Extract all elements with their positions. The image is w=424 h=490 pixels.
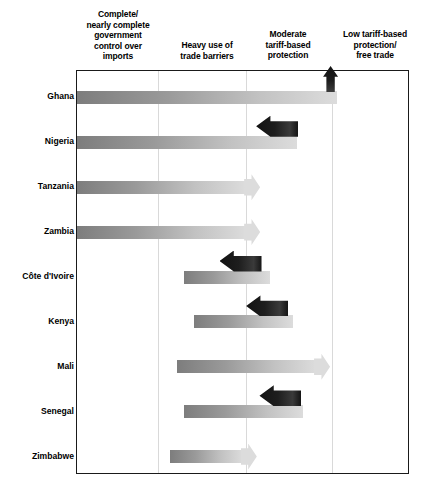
column-header-line: imports [62, 51, 174, 62]
bar-zambia [77, 226, 260, 239]
bar-nigeria [77, 136, 297, 149]
reform-arrow-left-icon [259, 385, 301, 406]
column-header-line: Complete/ [62, 9, 174, 20]
column-header-line: nearly complete [62, 20, 174, 31]
column-header-line: protection/ [327, 40, 423, 51]
bar-ghana [77, 91, 337, 104]
column-header-line: tariff-based [244, 40, 332, 51]
category-label-zambia: Zambia [2, 226, 74, 236]
bar-body [194, 315, 294, 328]
bar-body [170, 450, 243, 463]
category-label-kenya: Kenya [2, 316, 74, 326]
bar-tanzania [77, 181, 260, 194]
column-header-low-tariff-free-trade: Low tariff-based protection/ free trade [327, 29, 423, 61]
reform-arrow-up-icon [323, 66, 338, 92]
category-label-zimbabwe: Zimbabwe [2, 451, 74, 461]
category-label-mali: Mali [2, 361, 74, 371]
category-label-senegal: Senegal [2, 406, 74, 416]
bar-body [77, 136, 297, 149]
column-header-line: free trade [327, 50, 423, 61]
bar-zimbabwe [170, 450, 257, 463]
column-header-complete-control: Complete/ nearly complete government con… [62, 9, 174, 62]
trade-regime-chart: Complete/ nearly complete government con… [0, 0, 424, 490]
category-label-tanzania: Tanzania [2, 181, 74, 191]
column-header-moderate-tariff: Moderate tariff-based protection [244, 29, 332, 61]
column-header-heavy-trade-barriers: Heavy use of trade barriers [159, 40, 255, 61]
bar-senegal [184, 405, 304, 418]
category-label-c-te-d-ivoire: Côte d'Ivoire [2, 271, 74, 281]
bar-arrowhead-icon [241, 444, 257, 470]
column-header-line: trade barriers [159, 51, 255, 62]
category-axis: GhanaNigeriaTanzaniaZambiaCôte d'IvoireK… [0, 0, 74, 490]
column-header-line: protection [244, 50, 332, 61]
category-label-nigeria: Nigeria [2, 136, 74, 146]
reform-arrow-left-icon [220, 251, 262, 272]
column-header-line: Low tariff-based [327, 29, 423, 40]
bar-body [77, 91, 337, 104]
bar-body [184, 405, 304, 418]
category-label-ghana: Ghana [2, 91, 74, 101]
gridline-1 [158, 71, 159, 473]
column-header-line: control over [62, 41, 174, 52]
bar-body [177, 360, 316, 373]
reform-arrow-left-icon [246, 295, 288, 316]
reform-arrow-left-icon [256, 116, 298, 137]
bar-c-te-d-ivoire [184, 271, 271, 284]
column-header-line: government [62, 30, 174, 41]
column-header-line: Heavy use of [159, 40, 255, 51]
bar-body [77, 181, 246, 194]
bar-kenya [194, 315, 294, 328]
bar-mali [177, 360, 330, 373]
bar-body [77, 226, 246, 239]
column-header-line: Moderate [244, 29, 332, 40]
gridline-3 [332, 71, 333, 473]
plot-area [76, 70, 409, 474]
bar-arrowhead-icon [314, 354, 330, 380]
bar-body [184, 271, 271, 284]
